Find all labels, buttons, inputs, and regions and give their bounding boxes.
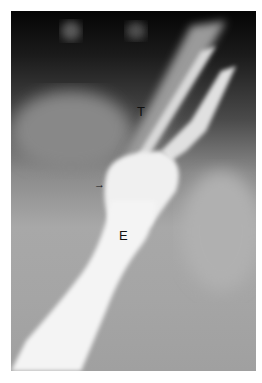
radiograph-image: T → E (11, 11, 256, 371)
radiograph-shapes (11, 11, 256, 371)
trachea-label: T (137, 104, 145, 119)
arrow-icon: → (94, 179, 105, 190)
esophagus-label: E (119, 228, 128, 243)
